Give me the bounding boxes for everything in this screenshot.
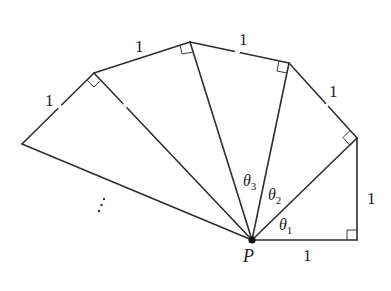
ray-P-A6 (22, 144, 252, 240)
right-angle-icon (347, 230, 357, 240)
side-label-1: 1 (303, 246, 312, 265)
edge-A2-A3 (289, 63, 357, 138)
hypotenuse-rays (22, 42, 357, 240)
right-angle-icon (87, 80, 101, 87)
right-angle-icon (343, 131, 357, 146)
point-P-dot (248, 236, 255, 243)
continuation-ellipsis-icon (98, 198, 105, 212)
point-label-P: P (242, 246, 254, 266)
side-label-4: 1 (239, 30, 248, 49)
unit-edges (22, 42, 357, 240)
edge-A5-A6 (22, 73, 94, 144)
side-label-5: 1 (135, 37, 144, 56)
ray-P-A4 (190, 42, 252, 240)
side-label-6: 1 (45, 91, 54, 110)
angle-theta-2: θ2 (268, 186, 281, 206)
side-label-2: 1 (367, 189, 376, 208)
ray-P-A5 (94, 73, 252, 240)
angle-theta-1: θ1 (279, 216, 292, 236)
side-label-3: 1 (329, 82, 338, 101)
triangle-spiral-diagram: P 1 1 1 1 1 1 θ1 θ2 θ3 (0, 0, 391, 291)
ray-P-A3 (252, 63, 289, 240)
angle-theta-3: θ3 (243, 172, 257, 192)
